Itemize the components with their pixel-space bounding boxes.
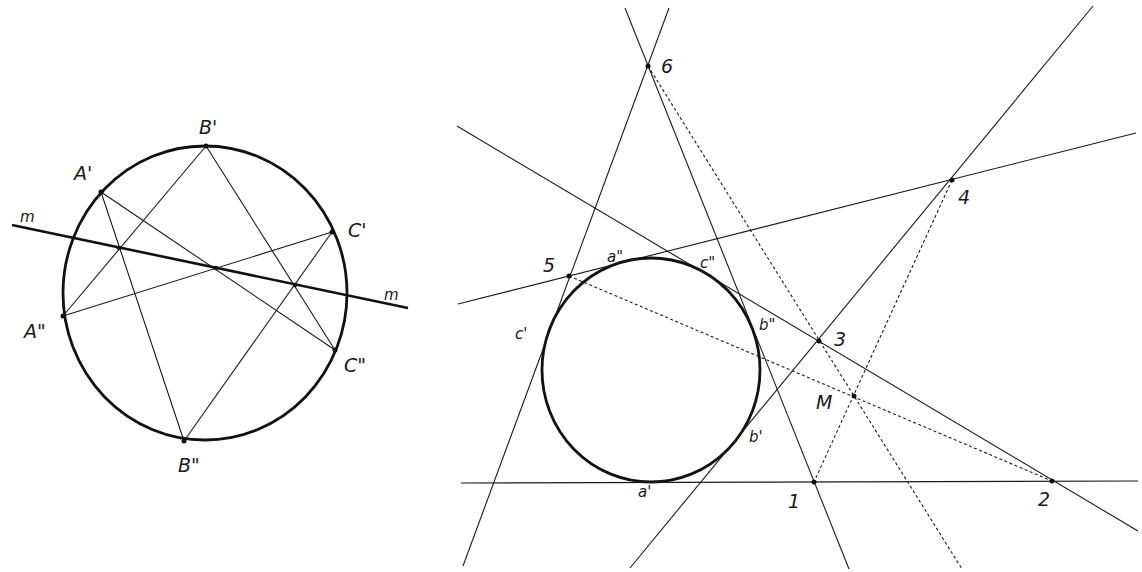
label-a2: A"	[22, 320, 46, 342]
label-b2-tangent: b"	[759, 316, 775, 334]
point-c2	[333, 348, 338, 353]
left-figure: A' A" B' B" C' C" m m	[12, 116, 408, 476]
point-b2	[182, 439, 187, 444]
intersection-ac	[214, 266, 219, 271]
label-a1: A'	[72, 162, 92, 184]
intersection-ab	[117, 246, 122, 251]
label-c2-tangent: c"	[700, 254, 715, 272]
tangent-b2-line-3-2	[457, 126, 1138, 531]
tangent-a1-line-1-2	[461, 481, 1138, 483]
label-axis-m-start: m	[20, 208, 35, 226]
right-figure: 1 2 3 4 5 6 M a' a" b' b" c' c"	[457, 6, 1138, 569]
label-a1-tangent: a'	[638, 483, 651, 501]
diagonal-6-3	[648, 66, 962, 569]
diagonal-5-2	[569, 276, 1052, 481]
point-a1	[99, 190, 104, 195]
label-vertex-2: 2	[1038, 488, 1050, 510]
label-b1: B'	[199, 116, 217, 138]
tangent-b1-line-3-4	[630, 6, 1093, 568]
label-c1-tangent: c'	[515, 325, 527, 343]
label-c1: C'	[348, 219, 367, 241]
label-vertex-6: 6	[661, 55, 673, 77]
vertex-6	[646, 64, 651, 69]
chord-a1-c2	[101, 192, 335, 350]
right-circle	[542, 258, 760, 482]
label-vertex-4: 4	[958, 186, 970, 208]
brianchon-point-m	[852, 394, 857, 399]
vertex-4	[950, 178, 955, 183]
label-m: M	[816, 391, 832, 413]
label-a2-tangent: a"	[607, 248, 623, 266]
label-b1-tangent: b'	[749, 428, 763, 446]
vertex-2	[1050, 479, 1055, 484]
vertex-3	[817, 339, 822, 344]
tangent-a2-line-5-4	[458, 133, 1136, 304]
tangent-c2-line-6-1	[625, 8, 849, 569]
label-vertex-1: 1	[788, 490, 800, 512]
label-vertex-5: 5	[543, 254, 555, 276]
label-axis-m-end: m	[384, 286, 399, 304]
label-b2: B"	[178, 454, 200, 476]
vertex-1	[812, 480, 817, 485]
label-vertex-3: 3	[834, 328, 846, 350]
point-b1	[204, 144, 209, 149]
intersection-bc	[293, 283, 298, 288]
left-circle	[63, 146, 347, 440]
geometry-canvas: A' A" B' B" C' C" m m 1 2 3 4 5 6	[0, 0, 1142, 572]
vertex-5	[567, 274, 572, 279]
point-a2	[61, 314, 66, 319]
point-c1	[330, 230, 335, 235]
label-c2: C"	[344, 354, 366, 376]
